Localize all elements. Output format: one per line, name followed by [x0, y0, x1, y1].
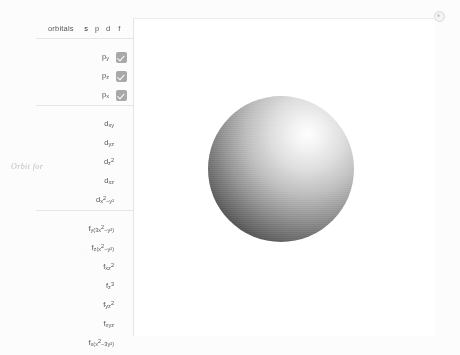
- orbital-label: px: [102, 91, 109, 100]
- f-orbital-group: fy(3x2−y²)fz(x2−y²)fxz2fz3fyz2fxyzfx(x2−…: [36, 220, 133, 353]
- orbital-row[interactable]: fxyz: [36, 315, 133, 334]
- orbital-label: dyz: [104, 139, 114, 148]
- orbitals-title: orbitals: [48, 24, 74, 33]
- orbital-control-panel: orbitals s p d f pypzpx dxydyzdz2dxzdx2−…: [36, 18, 133, 348]
- orbital-label: dxy: [104, 120, 114, 129]
- settings-dot-icon[interactable]: [434, 11, 445, 22]
- orbital-checkbox[interactable]: [116, 52, 127, 63]
- orbital-row[interactable]: pz: [36, 67, 133, 86]
- orbital-row[interactable]: fz3: [36, 277, 133, 296]
- orbital-label: fz3: [106, 282, 114, 291]
- orbital-row[interactable]: dxz: [36, 172, 133, 191]
- orbital-checkbox[interactable]: [116, 90, 127, 101]
- spacer-f-top: [36, 211, 133, 220]
- orbital-label: dz2: [104, 158, 114, 167]
- orbital-label: dx2−y²: [96, 196, 114, 205]
- orbital-label: fxz2: [103, 263, 114, 272]
- orbital-label: fx(x2−3y²): [88, 339, 114, 348]
- orbital-checkbox[interactable]: [116, 71, 127, 82]
- sphere-grain-overlay: [208, 96, 354, 242]
- orbital-label: dxz: [104, 177, 114, 186]
- orbital-row[interactable]: dz2: [36, 153, 133, 172]
- s-orbital-sphere[interactable]: [208, 96, 354, 242]
- shell-tab-s[interactable]: s: [81, 24, 92, 33]
- orbital-label: fxyz: [104, 320, 114, 329]
- orbital-row[interactable]: dyz: [36, 134, 133, 153]
- orbital-row[interactable]: py: [36, 48, 133, 67]
- orbital-row[interactable]: fz(x2−y²): [36, 239, 133, 258]
- shell-tab-f[interactable]: f: [114, 24, 125, 33]
- orbital-row[interactable]: dxy: [36, 115, 133, 134]
- shell-tab-p[interactable]: p: [92, 24, 103, 33]
- orbital-row[interactable]: fxz2: [36, 258, 133, 277]
- orbital-row[interactable]: fy(3x2−y²): [36, 220, 133, 239]
- orbital-render-viewport[interactable]: [133, 18, 435, 336]
- handwritten-margin-note: Orbit for: [11, 162, 43, 171]
- p-orbital-group: pypzpx: [36, 48, 133, 105]
- orbital-row[interactable]: dx2−y²: [36, 191, 133, 210]
- orbital-panel-header: orbitals s p d f: [36, 18, 133, 38]
- d-orbital-group: dxydyzdz2dxzdx2−y²: [36, 115, 133, 210]
- shell-tab-d[interactable]: d: [103, 24, 114, 33]
- orbital-label: fz(x2−y²): [92, 244, 114, 253]
- orbital-row[interactable]: fyz2: [36, 296, 133, 315]
- page-background: orbitals s p d f pypzpx dxydyzdz2dxzdx2−…: [0, 0, 460, 355]
- orbital-label: py: [102, 53, 109, 62]
- orbital-row[interactable]: fx(x2−3y²): [36, 334, 133, 353]
- spacer-d-top: [36, 106, 133, 115]
- spacer-p-top: [36, 39, 133, 48]
- orbital-label: pz: [102, 72, 109, 81]
- orbital-label: fy(3x2−y²): [88, 225, 114, 234]
- orbital-label: fyz2: [103, 301, 114, 310]
- orbital-row[interactable]: px: [36, 86, 133, 105]
